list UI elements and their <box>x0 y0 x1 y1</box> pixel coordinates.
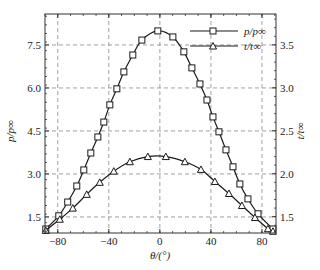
chart: −80−40040801.53.04.56.07.51.52.02.53.03.… <box>0 0 320 270</box>
y-left-tick-label: 7.5 <box>27 39 41 51</box>
y-right-tick-label: 1.5 <box>280 211 294 223</box>
square-marker-icon <box>237 181 243 187</box>
y-right-tick-label: 3.5 <box>280 39 294 51</box>
square-marker-icon <box>245 196 251 202</box>
square-marker-icon <box>95 134 101 140</box>
y-axis-left-label: p/p∞ <box>4 120 16 143</box>
square-marker-icon <box>121 69 127 75</box>
x-axis-label: θ/(°) <box>150 249 171 262</box>
square-marker-icon <box>114 86 120 92</box>
y-left-tick-label: 3.0 <box>27 168 41 180</box>
square-marker-icon <box>170 34 176 40</box>
square-marker-icon <box>204 97 210 103</box>
y-left-tick-label: 4.5 <box>27 125 41 137</box>
square-marker-icon <box>101 119 107 125</box>
grid-lines <box>45 14 276 233</box>
square-marker-icon <box>107 102 113 108</box>
square-marker-icon <box>139 37 145 43</box>
y-right-tick-label: 3.0 <box>280 82 294 94</box>
square-marker-icon <box>210 28 216 34</box>
square-marker-icon <box>130 52 136 58</box>
x-tick-label: −80 <box>49 235 67 247</box>
triangle-marker-icon <box>110 168 117 175</box>
legend-item-pressure: p/p∞ <box>190 25 266 37</box>
square-marker-icon <box>210 114 216 120</box>
square-marker-icon <box>181 49 187 55</box>
square-marker-icon <box>223 147 229 153</box>
y-right-tick-label: 2.5 <box>280 125 294 137</box>
series-line-square <box>46 31 273 229</box>
triangle-marker-icon <box>126 158 133 165</box>
x-tick-label: 40 <box>205 235 217 247</box>
square-marker-icon <box>88 150 94 156</box>
x-tick-label: 0 <box>157 235 163 247</box>
series-line-triangle <box>46 156 273 231</box>
square-marker-icon <box>216 129 222 135</box>
square-marker-icon <box>81 167 87 173</box>
square-marker-icon <box>155 28 161 34</box>
square-marker-icon <box>189 65 195 71</box>
legend: p/p∞ t/t∞ <box>190 25 266 52</box>
y-right-tick-label: 2.0 <box>280 168 294 180</box>
square-marker-icon <box>74 183 80 189</box>
legend-label-pressure: p/p∞ <box>243 25 266 37</box>
x-tick-label: −40 <box>100 235 118 247</box>
legend-item-temperature: t/t∞ <box>190 40 261 52</box>
square-marker-icon <box>65 199 71 205</box>
square-marker-icon <box>230 164 236 170</box>
legend-label-temperature: t/t∞ <box>244 40 261 52</box>
y-left-tick-label: 6.0 <box>27 82 41 94</box>
y-left-tick-label: 1.5 <box>27 211 41 223</box>
plot-frame <box>45 14 276 233</box>
x-tick-label: 80 <box>256 235 268 247</box>
triangle-marker-icon <box>197 166 204 173</box>
axis-ticks <box>45 14 276 233</box>
y-axis-right-label: t/t∞ <box>294 122 306 139</box>
square-marker-icon <box>197 81 203 87</box>
